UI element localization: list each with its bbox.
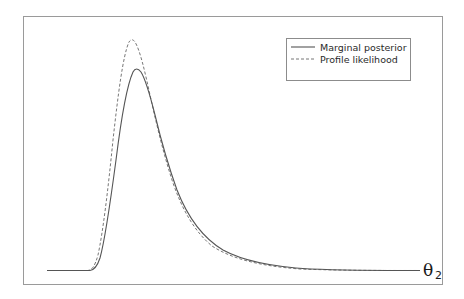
theta-subscript: 2 bbox=[435, 269, 442, 282]
marginal-posterior-curve bbox=[47, 69, 420, 271]
legend-label-profile-likelihood: Profile likelihood bbox=[320, 54, 398, 65]
legend-label-marginal-posterior: Marginal posterior bbox=[320, 42, 407, 53]
theta-symbol: θ bbox=[423, 260, 433, 280]
x-axis-label: θ 2 bbox=[423, 260, 442, 282]
chart-canvas: Marginal posterior Profile likelihood θ … bbox=[0, 0, 464, 299]
legend: Marginal posterior Profile likelihood bbox=[287, 39, 411, 81]
